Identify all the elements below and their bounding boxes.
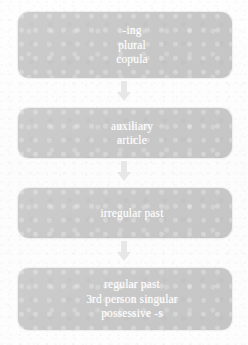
- node-text-line: -ing: [122, 23, 141, 38]
- node-text-line: plural: [118, 38, 146, 53]
- node-text-line: copula: [116, 52, 148, 67]
- arrow-down-icon: [114, 240, 134, 262]
- flowchart: -ing plural copula auxiliary article irr…: [0, 0, 248, 345]
- node-text-line: possessive -s: [101, 306, 163, 321]
- flowchart-node-stage-3[interactable]: irregular past: [18, 188, 232, 238]
- node-text-line: irregular past: [100, 206, 163, 221]
- arrow-down-icon: [114, 160, 134, 182]
- arrow-down-icon: [114, 80, 134, 102]
- flowchart-node-stage-4[interactable]: regular past 3rd person singular possess…: [18, 268, 232, 330]
- node-text-line: regular past: [104, 277, 160, 292]
- node-text-line: 3rd person singular: [86, 292, 178, 307]
- flowchart-node-stage-1[interactable]: -ing plural copula: [18, 12, 232, 78]
- node-text-line: article: [117, 133, 147, 148]
- node-text-line: auxiliary: [111, 119, 153, 134]
- flowchart-node-stage-2[interactable]: auxiliary article: [18, 108, 232, 158]
